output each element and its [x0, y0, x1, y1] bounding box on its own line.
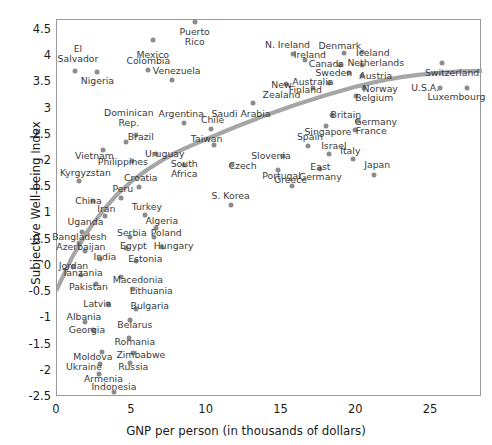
data-point	[465, 85, 470, 90]
data-point-label: Estonia	[128, 254, 162, 264]
data-point-label: Pakistan	[69, 282, 108, 292]
data-point-label: Algeria	[145, 216, 178, 226]
data-point-label: Zimbabwe	[116, 350, 165, 360]
data-point	[251, 101, 256, 106]
data-point-label: Italy	[340, 146, 360, 156]
data-point-label: Japan	[364, 160, 390, 170]
x-tick-label: 10	[198, 402, 213, 416]
data-point-label: Macedonia	[113, 275, 163, 285]
y-axis-title: Subjective Well-being Index	[29, 83, 43, 323]
data-point	[342, 51, 347, 56]
data-point-label: Indonesia	[91, 382, 136, 392]
data-point-label: India	[93, 252, 116, 262]
data-point-label: Luxembourg	[428, 92, 486, 102]
data-point-label: Netherlands	[347, 58, 404, 68]
data-point	[439, 60, 444, 65]
data-point-label: Albania	[67, 312, 102, 322]
data-point-label: Argentina	[159, 109, 204, 119]
x-tick-label: 0	[52, 402, 59, 416]
data-point	[119, 195, 124, 200]
data-point-label: SouthAfrica	[171, 159, 198, 179]
data-point-label: PuertoRico	[180, 27, 210, 47]
data-point-label: Croatia	[124, 173, 157, 183]
data-point-label: Egypt	[120, 241, 147, 251]
data-point-label: Chile	[201, 115, 224, 125]
y-tick-label: -2.5	[29, 389, 51, 403]
data-point-label: Russia	[118, 362, 148, 372]
plot-area: PuertoRicoMexicoElSalvadorColombiaNigeri…	[56, 19, 481, 396]
data-point	[192, 20, 197, 25]
data-point	[72, 68, 77, 73]
y-tick-label: 4	[44, 48, 51, 62]
data-point-label: Lithuania	[130, 286, 173, 296]
data-point-label: Belarus	[117, 320, 152, 330]
data-point-label: Taiwan	[191, 134, 223, 144]
data-point	[351, 156, 356, 161]
data-point	[327, 151, 332, 156]
data-point-label: Nigeria	[81, 76, 114, 86]
data-point	[150, 38, 155, 43]
data-point-label: Czech	[229, 161, 257, 171]
data-point-label: Poland	[151, 228, 182, 238]
data-point-label: Ukraine	[66, 362, 102, 372]
data-point	[182, 121, 187, 126]
y-axis-tick-labels: 4.543.532.521.510.50-0.5-1-1.5-2-2.5	[0, 0, 51, 445]
data-point-label: Switzerland	[425, 68, 479, 78]
data-point-label: Latvia	[83, 299, 111, 309]
data-point-label: Iran	[97, 204, 115, 214]
data-point	[209, 126, 214, 131]
y-tick-label: 4.5	[33, 22, 51, 36]
data-point-label: Romania	[114, 337, 155, 347]
data-point-label: Georgia	[69, 325, 105, 335]
data-point-label: DominicanRep.	[104, 108, 154, 128]
y-tick-label: 3	[44, 101, 51, 115]
x-axis-title: GNP per person (in thousands of dollars)	[0, 424, 492, 438]
data-point-label: S. Korea	[211, 191, 249, 201]
data-point-label: Tanzania	[62, 268, 102, 278]
data-point-label: ElSalvador	[58, 44, 99, 64]
data-point-label: Spain	[297, 132, 323, 142]
x-tick-label: 25	[423, 402, 438, 416]
data-point-label: Austria	[359, 71, 392, 81]
data-point	[372, 172, 377, 177]
data-point	[170, 77, 175, 82]
scatter-plot-figure: 4.543.532.521.510.50-0.5-1-1.5-2-2.5 Pue…	[0, 0, 492, 445]
data-point	[146, 67, 151, 72]
data-point-label: Brazil	[128, 132, 154, 142]
data-point	[306, 144, 311, 149]
x-axis-tick-labels: 0510152025	[0, 402, 492, 420]
data-point	[77, 178, 82, 183]
data-point	[228, 202, 233, 207]
data-point-label: Kyrgyzstan	[60, 168, 111, 178]
data-point	[95, 69, 100, 74]
data-point-label: Greece	[274, 175, 307, 185]
data-point-label: Turkey	[132, 202, 162, 212]
y-tick-label: -1.5	[29, 337, 51, 351]
x-tick-label: 5	[127, 402, 134, 416]
x-tick-label: 15	[273, 402, 288, 416]
data-point-label: Finland	[289, 85, 322, 95]
y-tick-label: -2	[40, 363, 51, 377]
data-point-label: Bulgaria	[131, 301, 170, 311]
data-point-label: Slovenia	[251, 151, 291, 161]
data-point-label: Denmark	[318, 41, 361, 51]
data-point-label: Serbia	[117, 228, 147, 238]
data-point-label: Venezuela	[153, 66, 201, 76]
data-point-label: Hungary	[154, 241, 194, 251]
data-point-label: Peru	[112, 184, 133, 194]
data-point-label: Belgium	[355, 93, 393, 103]
data-point	[137, 185, 142, 190]
y-tick-label: 0	[44, 258, 51, 272]
data-point-label: Uganda	[67, 217, 103, 227]
data-point	[212, 143, 217, 148]
x-tick-label: 20	[348, 402, 363, 416]
y-tick-label: 2	[44, 153, 51, 167]
y-tick-label: 1	[44, 205, 51, 219]
data-point-label: France	[356, 126, 387, 136]
